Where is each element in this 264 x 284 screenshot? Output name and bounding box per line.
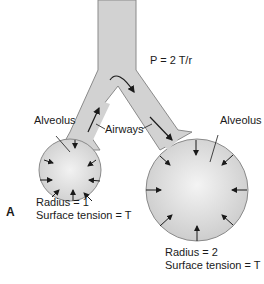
airways-label: Airways: [105, 123, 144, 136]
lung-alveoli-diagram: P = 2 T/r Alveolus Alveolus Airways A Ra…: [0, 0, 264, 284]
airway-tree-graphic: [0, 0, 264, 284]
alveolus-small-shape: [39, 139, 101, 201]
large-tension-text: Surface tension = T: [165, 259, 261, 272]
panel-letter: A: [6, 206, 15, 219]
equation-label: P = 2 T/r: [150, 54, 192, 67]
alveolus-small-label: Alveolus: [34, 114, 76, 127]
large-radius-text: Radius = 2: [165, 246, 218, 259]
small-tension-text: Surface tension = T: [36, 209, 132, 222]
small-radius-text: Radius = 1: [36, 196, 89, 209]
alveolus-large-label: Alveolus: [220, 114, 262, 127]
